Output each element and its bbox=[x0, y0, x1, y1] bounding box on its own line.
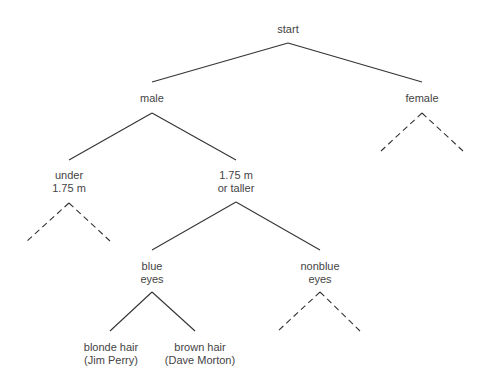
edge-taller-blue bbox=[152, 202, 236, 250]
edge-nonblue-dashed-right bbox=[320, 292, 360, 331]
node-blue-eyes: blue eyes bbox=[140, 260, 163, 286]
node-start: start bbox=[277, 23, 298, 36]
node-blonde-line1: blonde hair bbox=[84, 341, 138, 354]
edge-female-dashed-left bbox=[381, 113, 422, 151]
node-brown-line2: (Dave Morton) bbox=[165, 354, 235, 367]
node-taller: 1.75 m or taller bbox=[218, 169, 255, 195]
edge-under-dashed-left bbox=[27, 203, 69, 241]
node-nonblue-line1: nonblue bbox=[300, 260, 339, 273]
node-nonblue-line2: eyes bbox=[300, 273, 339, 286]
node-male-label: male bbox=[140, 92, 164, 105]
node-nonblue-eyes: nonblue eyes bbox=[300, 260, 339, 286]
edge-blue-brown bbox=[152, 292, 195, 331]
node-start-label: start bbox=[277, 23, 298, 36]
edge-start-female bbox=[288, 43, 422, 82]
node-blue-line1: blue bbox=[140, 260, 163, 273]
node-brown-hair: brown hair (Dave Morton) bbox=[165, 341, 235, 367]
node-under-line2: 1.75 m bbox=[52, 182, 86, 195]
node-male: male bbox=[140, 92, 164, 105]
node-blonde-line2: (Jim Perry) bbox=[84, 354, 138, 367]
node-taller-line2: or taller bbox=[218, 182, 255, 195]
edge-male-taller bbox=[152, 113, 236, 160]
edge-taller-nonblue bbox=[236, 202, 320, 250]
node-under: under 1.75 m bbox=[52, 169, 86, 195]
edge-nonblue-dashed-left bbox=[278, 292, 320, 331]
node-taller-line1: 1.75 m bbox=[218, 169, 255, 182]
node-brown-line1: brown hair bbox=[165, 341, 235, 354]
node-female: female bbox=[405, 92, 438, 105]
edge-female-dashed-right bbox=[422, 113, 463, 151]
edge-under-dashed-right bbox=[69, 203, 110, 241]
node-blue-line2: eyes bbox=[140, 273, 163, 286]
node-under-line1: under bbox=[52, 169, 86, 182]
node-blonde-hair: blonde hair (Jim Perry) bbox=[84, 341, 138, 367]
edge-start-male bbox=[152, 43, 288, 82]
edge-male-under bbox=[69, 113, 152, 160]
edge-blue-blonde bbox=[110, 292, 152, 331]
node-female-label: female bbox=[405, 92, 438, 105]
